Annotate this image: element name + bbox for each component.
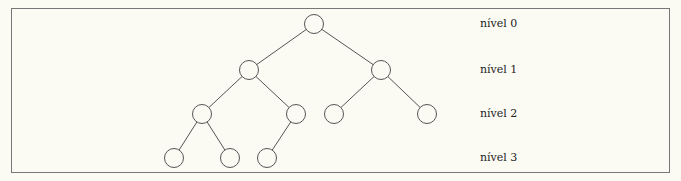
tree-edge xyxy=(322,29,373,64)
tree-node xyxy=(165,149,184,168)
level-label-2: nível 2 xyxy=(480,107,517,120)
level-label-3: nível 3 xyxy=(480,151,517,164)
binary-tree-diagram xyxy=(0,0,681,181)
tree-node xyxy=(258,149,277,168)
tree-edge xyxy=(341,76,374,107)
tree-node xyxy=(221,149,240,168)
tree-nodes xyxy=(165,15,437,168)
tree-node xyxy=(193,105,212,124)
tree-edge xyxy=(272,122,291,150)
tree-edge xyxy=(209,76,242,107)
tree-node xyxy=(287,105,306,124)
tree-node xyxy=(305,15,324,34)
tree-node xyxy=(240,61,259,80)
tree-edge xyxy=(179,122,197,150)
tree-edge xyxy=(256,76,289,107)
tree-edge xyxy=(388,77,420,108)
tree-edge xyxy=(257,29,306,64)
tree-edges xyxy=(179,29,420,150)
level-label-0: nível 0 xyxy=(480,17,517,30)
tree-node xyxy=(325,105,344,124)
level-label-1: nível 1 xyxy=(480,63,517,76)
tree-node xyxy=(372,61,391,80)
tree-node xyxy=(418,105,437,124)
tree-edge xyxy=(207,122,225,150)
